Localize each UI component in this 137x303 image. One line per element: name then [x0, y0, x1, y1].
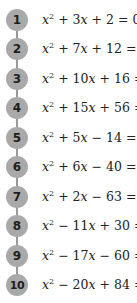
variable: x [89, 71, 96, 86]
equation-item: 4x2 + 15x + 56 = 0 [0, 97, 137, 121]
number-badge: 5 [6, 127, 28, 149]
variable: x [89, 100, 96, 115]
equation-text: x2 + 10x + 16 = 0 [42, 71, 137, 87]
number-badge: 8 [6, 215, 28, 237]
equation-text: x2 − 17x − 60 = 0 [42, 248, 137, 264]
exponent: 2 [49, 277, 54, 286]
operator-2: + [92, 41, 102, 56]
variable: x [42, 218, 49, 233]
constant: 63 [106, 189, 122, 204]
operator-1: + [58, 100, 68, 115]
coefficient: 6 [73, 159, 81, 174]
operator-2: + [100, 100, 110, 115]
equation-text: x2 + 5x − 14 = 0 [42, 130, 137, 146]
number-badge: 1 [6, 9, 28, 31]
equation-item: 2x2 + 7x + 12 = 0 [0, 38, 137, 62]
equation-text: x2 − 11x + 30 = 0 [42, 218, 137, 234]
equation-text: x2 − 20x + 84 = 0 [42, 277, 137, 293]
equation-item: 8x2 − 11x + 30 = 0 [0, 215, 137, 239]
variable: x [42, 189, 49, 204]
coefficient: 7 [73, 41, 81, 56]
exponent: 2 [49, 100, 54, 109]
variable: x [89, 218, 96, 233]
equation-text: x2 + 2x − 63 = 0 [42, 189, 137, 205]
equation-text: x2 + 15x + 56 = 0 [42, 100, 137, 116]
coefficient: 20 [73, 277, 89, 292]
operator-1: + [58, 41, 68, 56]
equation-item: 7x2 + 2x − 63 = 0 [0, 186, 137, 210]
variable: x [42, 248, 49, 263]
constant: 40 [106, 159, 122, 174]
exponent: 2 [49, 71, 54, 80]
exponent: 2 [49, 189, 54, 198]
constant: 56 [114, 100, 130, 115]
variable: x [42, 41, 49, 56]
variable: x [89, 248, 96, 263]
operator-1: + [58, 189, 68, 204]
equals-zero: = 0 [118, 12, 137, 27]
operator-1: − [58, 277, 68, 292]
operator-1: − [58, 218, 68, 233]
variable: x [81, 41, 88, 56]
variable: x [81, 159, 88, 174]
equals-zero: = 0 [134, 100, 137, 115]
number-badge: 3 [6, 68, 28, 90]
operator-1: + [58, 12, 68, 27]
operator-2: − [100, 248, 110, 263]
variable: x [81, 189, 88, 204]
coefficient: 10 [73, 71, 89, 86]
equation-item: 6x2 + 6x − 40 = 0 [0, 156, 137, 180]
exponent: 2 [49, 218, 54, 227]
number-badge: 6 [6, 156, 28, 178]
exponent: 2 [49, 248, 54, 257]
variable: x [42, 100, 49, 115]
variable: x [42, 130, 49, 145]
operator-1: + [58, 159, 68, 174]
coefficient: 3 [73, 12, 81, 27]
number-badge: 4 [6, 97, 28, 119]
operator-1: − [58, 248, 68, 263]
equation-text: x2 + 3x + 2 = 0 [42, 12, 137, 28]
constant: 16 [114, 71, 130, 86]
constant: 12 [106, 41, 122, 56]
constant: 30 [114, 218, 130, 233]
variable: x [42, 277, 49, 292]
equals-zero: = 0 [126, 159, 137, 174]
variable: x [42, 12, 49, 27]
operator-1: + [58, 130, 68, 145]
equals-zero: = 0 [134, 71, 137, 86]
constant: 2 [106, 12, 114, 27]
equals-zero: = 0 [126, 130, 137, 145]
exponent: 2 [49, 41, 54, 50]
equation-item: 5x2 + 5x − 14 = 0 [0, 127, 137, 151]
coefficient: 5 [73, 130, 81, 145]
exponent: 2 [49, 12, 54, 21]
equals-zero: = 0 [134, 248, 137, 263]
variable: x [81, 130, 88, 145]
operator-2: − [92, 130, 102, 145]
equation-text: x2 + 6x − 40 = 0 [42, 159, 137, 175]
constant: 84 [114, 277, 130, 292]
operator-2: + [100, 277, 110, 292]
coefficient: 2 [73, 189, 81, 204]
constant: 14 [106, 130, 122, 145]
coefficient: 11 [73, 218, 89, 233]
operator-2: + [100, 71, 110, 86]
number-badge: 9 [6, 245, 28, 267]
coefficient: 17 [73, 248, 89, 263]
variable: x [81, 12, 88, 27]
equation-item: 9x2 − 17x − 60 = 0 [0, 245, 137, 269]
equation-item: 1x2 + 3x + 2 = 0 [0, 9, 137, 33]
exponent: 2 [49, 130, 54, 139]
equals-zero: = 0 [126, 189, 137, 204]
coefficient: 15 [73, 100, 89, 115]
equals-zero: = 0 [134, 218, 137, 233]
variable: x [42, 71, 49, 86]
equation-item: 10x2 − 20x + 84 = 0 [0, 274, 137, 298]
constant: 60 [114, 248, 130, 263]
operator-2: − [92, 159, 102, 174]
equation-item: 3x2 + 10x + 16 = 0 [0, 68, 137, 92]
number-badge: 2 [6, 38, 28, 60]
equals-zero: = 0 [134, 277, 137, 292]
equals-zero: = 0 [126, 41, 137, 56]
